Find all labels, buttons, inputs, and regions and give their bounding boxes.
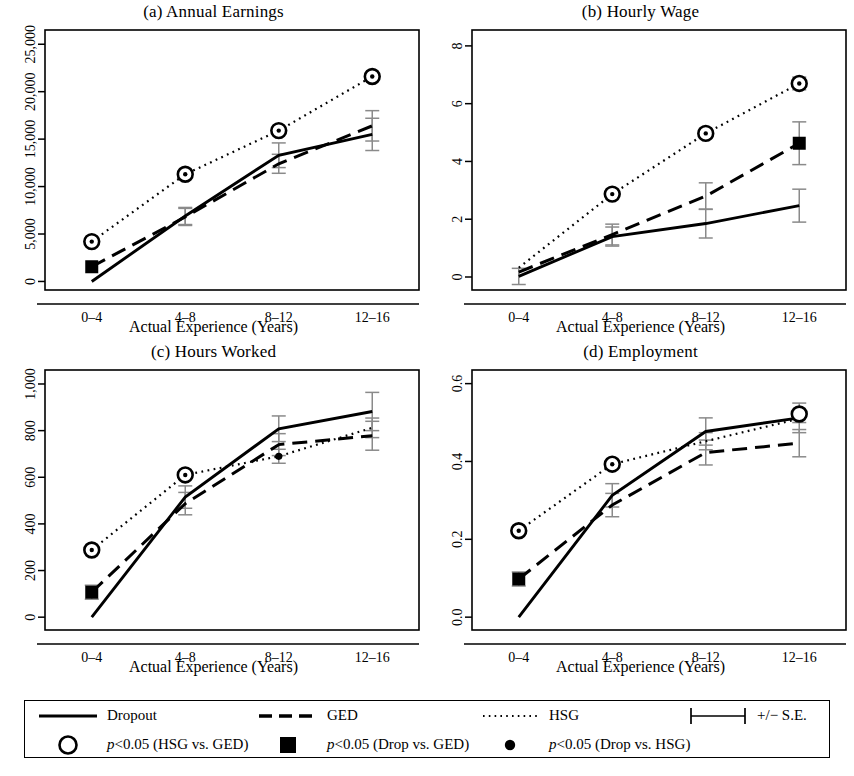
open-circle-icon (33, 730, 103, 759)
panel-hours-worked: (c) Hours Worked 02004006008001,0000–44–… (0, 340, 427, 680)
panel-annual-earnings: (a) Annual Earnings 05,00010,00015,00020… (0, 0, 427, 340)
marker-filled-square-icon (85, 586, 98, 599)
y-tick-label: 0.4 (450, 453, 465, 471)
series-line-ged (519, 143, 800, 272)
marker-circle-dot-icon (605, 457, 620, 472)
panel-c-xlabel: Actual Experience (Years) (0, 658, 427, 676)
y-tick-label: 15,000 (23, 120, 38, 159)
marker-circle-dot-icon (84, 543, 99, 558)
legend-label-p-drop-vs-ged: p<0.05 (Drop vs. GED) (323, 736, 469, 753)
marker-filled-square-icon (793, 137, 806, 150)
y-tick-label: 1,000 (23, 368, 38, 400)
marker-circle-dot-icon (605, 187, 620, 202)
legend-box: Dropout GED HSG (24, 700, 830, 758)
series-line-ged (92, 436, 373, 592)
legend-entry-standard-error: +/− S.E. (683, 701, 807, 730)
series-line-dropout (92, 412, 373, 618)
legend-row-significance: p<0.05 (HSG vs. GED) p<0.05 (Drop vs. GE… (25, 730, 829, 759)
marker-circle-dot-icon (698, 126, 713, 141)
legend-label-ged: GED (323, 707, 358, 724)
series-line-hsg (92, 76, 373, 241)
marker-circle-dot-icon (178, 468, 193, 483)
legend-label-hsg: HSG (545, 707, 579, 724)
y-tick-label: 0.0 (450, 608, 465, 626)
legend-entry-hsg: HSG (475, 701, 579, 730)
p-text-hsg-ged: <0.05 (HSG vs. GED) (115, 736, 249, 752)
marker-circle-dot-icon (271, 123, 286, 138)
series-line-dropout (92, 134, 373, 281)
marker-circle-dot-icon (792, 76, 807, 91)
y-tick-label: 5,000 (23, 218, 38, 250)
y-tick-label: 800 (23, 420, 38, 441)
p-italic-drop-hsg: p (549, 736, 557, 752)
error-bar-icon (683, 701, 753, 730)
marker-filled-square-icon (85, 260, 98, 273)
y-tick-label: 0 (23, 278, 38, 285)
p-italic-drop-ged: p (327, 736, 335, 752)
y-tick-label: 20,000 (23, 72, 38, 111)
legend-entry-dropout: Dropout (33, 701, 157, 730)
y-tick-label: 0 (450, 274, 465, 281)
error-bar (792, 430, 806, 457)
y-tick-label: 0.2 (450, 531, 465, 549)
series-line-hsg (519, 83, 800, 267)
panel-b-plot: 024680–44–88–1212–16 (427, 0, 854, 340)
legend-entry-ged: GED (253, 701, 358, 730)
legend-label-dropout: Dropout (103, 707, 157, 724)
legend-row-series: Dropout GED HSG (25, 701, 829, 730)
small-dot-icon (475, 730, 545, 759)
legend-entry-p-drop-vs-ged: p<0.05 (Drop vs. GED) (253, 730, 469, 759)
y-tick-label: 2 (450, 216, 465, 223)
solid-line-icon (33, 701, 103, 730)
panel-a-xlabel: Actual Experience (Years) (0, 318, 427, 336)
series-line-hsg (92, 428, 373, 550)
marker-circle-dot-icon (365, 69, 380, 84)
panel-d-xlabel: Actual Experience (Years) (427, 658, 854, 676)
y-tick-label: 600 (23, 467, 38, 488)
legend-entry-p-hsg-vs-ged: p<0.05 (HSG vs. GED) (33, 730, 248, 759)
y-tick-label: 4 (450, 158, 465, 165)
y-tick-label: 6 (450, 100, 465, 107)
error-bar (699, 183, 713, 210)
p-text-drop-hsg: <0.05 (Drop vs. HSG) (557, 736, 691, 752)
panel-d-plot: 0.00.20.40.60–44–88–1212–16 (427, 340, 854, 680)
y-tick-label: 10,000 (23, 167, 38, 206)
legend-entry-p-drop-vs-hsg: p<0.05 (Drop vs. HSG) (475, 730, 690, 759)
legend-label-p-hsg-vs-ged: p<0.05 (HSG vs. GED) (103, 736, 248, 753)
panel-a-plot: 05,00010,00015,00020,00025,0000–44–88–12… (0, 0, 427, 340)
filled-square-icon (253, 730, 323, 759)
p-italic-hsg-ged: p (107, 736, 115, 752)
legend-label-p-drop-vs-hsg: p<0.05 (Drop vs. HSG) (545, 736, 690, 753)
marker-circle-dot-icon (511, 523, 526, 538)
p-text-drop-ged: <0.05 (Drop vs. GED) (335, 736, 470, 752)
panel-hourly-wage: (b) Hourly Wage 024680–44–88–1212–16 Act… (427, 0, 854, 340)
legend-label-standard-error: +/− S.E. (753, 707, 807, 724)
marker-open-circle-icon (792, 407, 807, 422)
panel-b-xlabel: Actual Experience (Years) (427, 318, 854, 336)
figure-root: (a) Annual Earnings 05,00010,00015,00020… (0, 0, 854, 776)
series-line-ged (92, 126, 373, 267)
dotted-line-icon (475, 701, 545, 730)
marker-circle-dot-icon (84, 234, 99, 249)
panel-c-plot: 02004006008001,0000–44–88–1212–16 (0, 340, 427, 680)
y-tick-label: 400 (23, 513, 38, 534)
dashed-line-icon (253, 701, 323, 730)
y-tick-label: 0 (23, 614, 38, 621)
y-tick-label: 25,000 (23, 25, 38, 64)
y-tick-label: 8 (450, 42, 465, 49)
panel-employment: (d) Employment 0.00.20.40.60–44–88–1212–… (427, 340, 854, 680)
y-tick-label: 200 (23, 560, 38, 581)
marker-filled-square-icon (512, 573, 525, 586)
marker-circle-dot-icon (178, 167, 193, 182)
marker-small-dot-icon (275, 453, 282, 460)
y-tick-label: 0.6 (450, 375, 465, 393)
series-line-hsg (519, 419, 800, 531)
